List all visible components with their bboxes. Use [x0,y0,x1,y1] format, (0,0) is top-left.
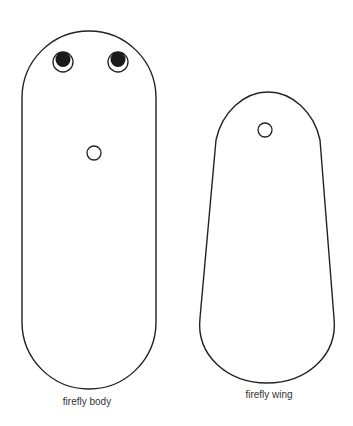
wing-hole-icon [258,123,272,137]
firefly-body-label: firefly body [63,396,111,407]
right-eye-icon [108,52,128,72]
firefly-body-piece [22,31,156,389]
firefly-body-outline [22,31,156,389]
firefly-template-drawing [0,0,353,426]
body-hole-icon [87,146,101,160]
firefly-wing-label: firefly wing [245,389,292,400]
left-eye-icon [53,52,73,72]
firefly-wing-piece [200,92,335,383]
